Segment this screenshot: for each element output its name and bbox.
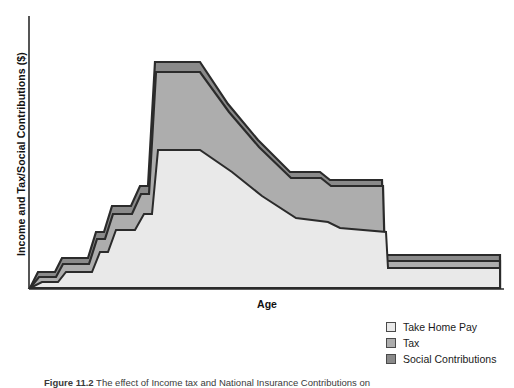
figure-number: Figure 11.2: [44, 377, 94, 388]
legend-item-social-contributions: Social Contributions: [386, 352, 496, 366]
legend-item-tax: Tax: [386, 336, 496, 350]
legend-swatch-tax: [386, 338, 396, 348]
figure-caption: Figure 11.2 The effect of Income tax and…: [44, 377, 514, 388]
x-axis-label: Age: [0, 298, 514, 310]
legend-swatch-social-contributions: [386, 354, 396, 364]
figure-caption-text: The effect of Income tax and National In…: [96, 377, 370, 388]
chart-legend: Take Home Pay Tax Social Contributions: [386, 320, 496, 366]
legend-label-social-contributions: Social Contributions: [403, 354, 496, 365]
legend-label-tax: Tax: [403, 338, 419, 349]
stacked-area-chart: [0, 0, 514, 300]
legend-swatch-take-home-pay: [386, 322, 396, 332]
legend-label-take-home-pay: Take Home Pay: [403, 322, 477, 333]
legend-item-take-home-pay: Take Home Pay: [386, 320, 496, 334]
